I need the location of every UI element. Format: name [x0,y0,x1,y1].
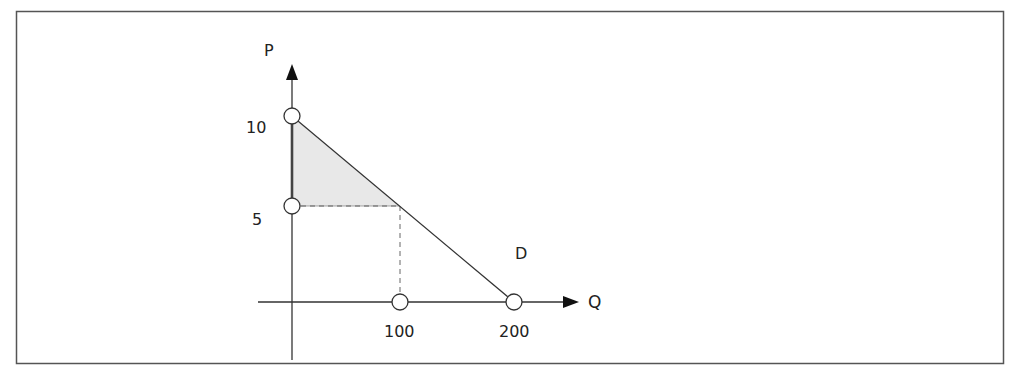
demand-label: D [515,244,527,263]
point-p5-marker [284,198,300,214]
q-axis-arrow-icon [563,296,579,308]
x-tick-200: 200 [499,322,530,341]
p-axis-label: P [264,41,274,60]
x-tick-100: 100 [384,322,415,341]
q-axis-label: Q [588,292,601,312]
point-p10-marker [284,108,300,124]
point-q200-marker [506,294,522,310]
y-tick-10: 10 [246,118,266,137]
figure-border [17,12,1004,364]
point-q100-marker [392,294,408,310]
p-axis-arrow-icon [286,64,298,80]
demand-curve [292,116,514,302]
y-tick-5: 5 [252,210,262,229]
diagram-canvas: P Q 10 5 100 200 D [0,0,1018,375]
